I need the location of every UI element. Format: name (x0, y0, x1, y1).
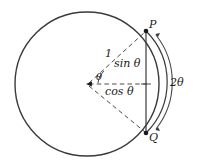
label-sin-theta: sin θ (114, 58, 140, 69)
point-q-dot (144, 131, 149, 136)
label-arc-two-theta: 2θ (170, 77, 184, 88)
geometry-figure: P Q 1 sin θ cos θ θ 2θ (0, 0, 202, 166)
label-cos-theta: cos θ (105, 86, 134, 97)
label-point-p: P (149, 19, 156, 30)
label-point-q: Q (149, 132, 158, 143)
center-point-marker (86, 81, 92, 86)
label-center-angle-theta: θ (96, 72, 102, 82)
point-p-dot (144, 29, 149, 34)
label-radius-one: 1 (105, 48, 112, 59)
